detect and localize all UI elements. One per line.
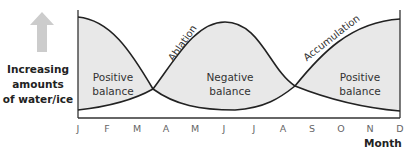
region-2-line-1: Negative: [190, 70, 270, 84]
region-label-positive-2: Positive balance: [330, 70, 390, 98]
month-tick: D: [396, 123, 403, 134]
x-axis-label: Month: [364, 137, 402, 149]
month-tick: M: [133, 123, 141, 134]
month-tick: M: [191, 123, 199, 134]
month-tick: O: [337, 123, 344, 134]
y-label-line-1: Increasing: [0, 62, 76, 77]
month-tick: N: [366, 123, 373, 134]
region-label-negative: Negative balance: [190, 70, 270, 98]
month-tick: J: [253, 123, 256, 134]
y-axis-label: Increasing amounts of water/ice: [0, 62, 76, 107]
region-3-line-1: Positive: [330, 70, 390, 84]
region-1-line-1: Positive: [83, 70, 143, 84]
month-tick: F: [104, 123, 109, 134]
region-label-positive-1: Positive balance: [83, 70, 143, 98]
month-tick: S: [309, 123, 315, 134]
region-1-line-2: balance: [83, 84, 143, 98]
y-label-line-2: amounts: [0, 77, 76, 92]
region-2-line-2: balance: [190, 84, 270, 98]
month-tick: J: [77, 123, 80, 134]
region-3-line-2: balance: [330, 84, 390, 98]
month-tick: J: [223, 123, 226, 134]
glacier-mass-balance-diagram: Increasing amounts of water/ice Positive…: [0, 0, 415, 153]
up-arrow-icon: [30, 12, 54, 52]
y-label-line-3: of water/ice: [0, 92, 76, 107]
month-tick: A: [280, 123, 287, 134]
month-tick: A: [163, 123, 170, 134]
